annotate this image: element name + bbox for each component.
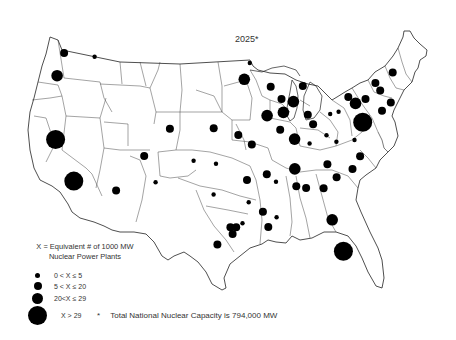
site-bubble [60, 49, 68, 57]
site-bubble [140, 152, 148, 160]
legend-heading-line1: X = Equivalent # of 1000 MW [30, 242, 140, 252]
site-bubble [333, 173, 341, 181]
site-bubble [344, 93, 352, 101]
site-bubble [243, 176, 251, 184]
legend-dot-l [28, 306, 47, 325]
legend-label-xs: 0 < X ≤ 5 [54, 272, 82, 279]
site-bubble [304, 111, 312, 119]
site-bubble [274, 215, 278, 219]
legend-item-m: 20<X ≤ 29 [28, 293, 86, 304]
site-bubble [248, 61, 252, 65]
legend-label-l: X > 29 [61, 312, 81, 319]
site-bubble [334, 140, 338, 144]
site-bubble [289, 163, 301, 175]
site-bubble [323, 160, 331, 168]
site-bubble [307, 141, 311, 145]
site-bubble [362, 95, 370, 103]
legend-dot-m [32, 293, 43, 304]
site-bubble [46, 130, 65, 149]
site-bubble [274, 180, 278, 184]
site-bubble [349, 165, 357, 173]
legend-label-m: 20<X ≤ 29 [54, 295, 86, 302]
legend-heading-line2: Nuclear Power Plants [30, 252, 140, 262]
site-bubble [302, 184, 310, 192]
site-bubble [324, 133, 328, 137]
site-bubble [320, 184, 328, 192]
site-bubble [234, 131, 242, 139]
site-bubble [356, 152, 364, 160]
legend-heading: X = Equivalent # of 1000 MW Nuclear Powe… [30, 242, 140, 262]
legend-item-xs: 0 < X ≤ 5 [28, 272, 82, 279]
site-bubble [352, 138, 356, 142]
site-bubble [166, 125, 174, 133]
site-bubble [389, 68, 397, 76]
site-bubble [289, 133, 301, 145]
site-bubble [353, 113, 372, 132]
site-bubble [326, 214, 338, 226]
site-bubble [288, 96, 300, 108]
site-bubble [64, 172, 83, 191]
site-bubble [213, 241, 221, 249]
footnote: * Total National Nuclear Capacity is 794… [97, 311, 277, 320]
site-bubble [259, 208, 267, 216]
site-bubble [376, 87, 384, 95]
site-bubble [263, 170, 271, 178]
site-bubble [276, 126, 284, 134]
site-bubble [378, 107, 386, 115]
footnote-star: * [97, 311, 100, 320]
site-bubble [92, 55, 96, 59]
legend-dot-s [34, 282, 42, 290]
legend-dot-xs [35, 273, 40, 278]
site-bubble [278, 95, 286, 103]
site-bubble [264, 223, 272, 231]
site-bubble [267, 83, 275, 91]
site-bubble [278, 107, 290, 119]
site-bubble [328, 112, 332, 116]
site-bubble [334, 242, 353, 261]
site-bubble [239, 74, 251, 86]
site-bubble [229, 230, 237, 238]
site-bubble [309, 120, 317, 128]
site-bubble [387, 99, 395, 107]
site-bubble [292, 182, 300, 190]
legend-item-l: X > 29 [28, 306, 81, 325]
site-bubble [214, 162, 218, 166]
legend-label-s: 5 < X ≤ 20 [54, 283, 86, 290]
site-bubble [247, 200, 251, 204]
site-bubble [336, 110, 340, 114]
site-bubble [112, 187, 120, 195]
footnote-text: Total National Nuclear Capacity is 794,0… [110, 311, 277, 320]
site-bubble [299, 82, 307, 90]
site-bubble [51, 70, 63, 82]
site-bubble [211, 192, 215, 196]
site-bubble [210, 124, 218, 132]
map-title: 2025* [235, 34, 259, 44]
site-bubble [371, 79, 379, 87]
site-bubble [191, 159, 195, 163]
site-bubble [153, 180, 157, 184]
site-bubble [240, 221, 244, 225]
site-bubble [261, 110, 273, 122]
site-bubble [248, 141, 256, 149]
legend-item-s: 5 < X ≤ 20 [28, 282, 86, 290]
